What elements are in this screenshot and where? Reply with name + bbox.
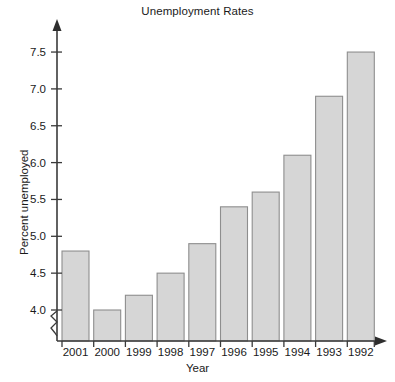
x-tick-label-1992: 1992 bbox=[341, 346, 381, 358]
y-tick-label-6.5: 6.5 bbox=[12, 120, 46, 132]
bar-1999 bbox=[125, 295, 152, 341]
bar-1992 bbox=[347, 52, 374, 341]
unemployment-bar-chart: Unemployment Rates Percent unemployed Ye… bbox=[0, 0, 395, 382]
x-axis-arrow-icon bbox=[375, 337, 387, 346]
bar-1993 bbox=[316, 96, 343, 341]
bars-group bbox=[62, 52, 374, 341]
y-tick-label-5.0: 5.0 bbox=[12, 230, 46, 242]
y-axis-break-icon bbox=[51, 311, 57, 336]
y-tick-label-7.0: 7.0 bbox=[12, 83, 46, 95]
y-tick-label-4.0: 4.0 bbox=[12, 304, 46, 316]
bar-1998 bbox=[157, 273, 184, 341]
bar-1995 bbox=[252, 192, 279, 341]
y-tick-label-5.5: 5.5 bbox=[12, 193, 46, 205]
bar-1994 bbox=[284, 155, 311, 341]
bar-2001 bbox=[62, 251, 89, 341]
y-axis-arrow-icon bbox=[53, 19, 62, 31]
y-tick-label-4.5: 4.5 bbox=[12, 267, 46, 279]
bar-1997 bbox=[189, 244, 216, 341]
y-tick-label-6.0: 6.0 bbox=[12, 157, 46, 169]
plot-area bbox=[0, 0, 395, 382]
y-tick-label-7.5: 7.5 bbox=[12, 46, 46, 58]
bar-1996 bbox=[221, 207, 248, 341]
bar-2000 bbox=[94, 310, 121, 341]
